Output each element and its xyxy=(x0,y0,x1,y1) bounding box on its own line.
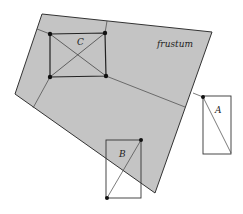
diagram: frustum A B C xyxy=(0,0,243,214)
frustum-diagram: frustum A B C xyxy=(0,0,243,214)
label-frustum: frustum xyxy=(156,39,193,49)
label-a: A xyxy=(214,105,222,115)
label-c: C xyxy=(77,37,84,47)
box-a xyxy=(201,95,231,154)
label-b: B xyxy=(118,149,126,159)
